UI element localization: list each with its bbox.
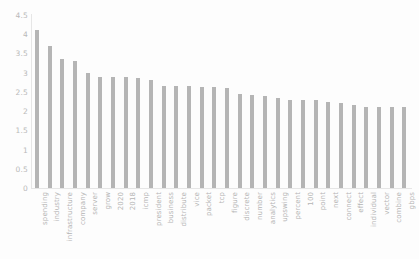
y-tick-label: 3 [23, 68, 28, 77]
bar-slot [311, 15, 324, 188]
bar-slot [298, 15, 311, 188]
y-tick-label: 1.5 [15, 126, 28, 135]
bar [250, 95, 254, 188]
bar [263, 96, 267, 188]
bar [136, 78, 140, 188]
bar [276, 98, 280, 188]
bar-slot [222, 15, 235, 188]
bar [174, 86, 178, 188]
bar-slot [209, 15, 222, 188]
bar [98, 77, 102, 188]
bar-slot [247, 15, 260, 188]
y-tick-label: 2.5 [15, 87, 28, 96]
bar-slot [399, 15, 412, 188]
bar-slot [197, 15, 210, 188]
bar-slot [57, 15, 70, 188]
y-tick-label: 4.5 [15, 11, 28, 20]
bar [124, 77, 128, 188]
bar-slot [108, 15, 121, 188]
bar-series [32, 15, 412, 188]
x-axis-tick-labels: spendingindustryinfrastructurecompanyser… [32, 191, 412, 257]
bar [48, 46, 52, 188]
y-tick-label: 0.5 [15, 164, 28, 173]
bar-slot [285, 15, 298, 188]
bar-slot [361, 15, 374, 188]
y-tick-label: 0 [23, 184, 28, 193]
bar [352, 105, 356, 188]
bar [339, 103, 343, 188]
bar-slot [349, 15, 362, 188]
y-tick-label: 1 [23, 145, 28, 154]
y-tick-label: 3.5 [15, 49, 28, 58]
bar-slot [260, 15, 273, 188]
bar-slot [121, 15, 134, 188]
bar-slot [83, 15, 96, 188]
y-tick-label: 4 [23, 30, 28, 39]
bar [73, 61, 77, 188]
bar [149, 80, 153, 188]
bar-slot [184, 15, 197, 188]
bar [35, 30, 39, 188]
bar [364, 107, 368, 189]
bar [238, 94, 242, 188]
bar [111, 77, 115, 188]
bar [162, 86, 166, 188]
bar-slot [45, 15, 58, 188]
bar-slot [374, 15, 387, 188]
bar [314, 100, 318, 188]
bar-slot [323, 15, 336, 188]
bar-slot [336, 15, 349, 188]
bar [187, 86, 191, 188]
bar [301, 100, 305, 188]
bar-slot [70, 15, 83, 188]
bar-slot [32, 15, 45, 188]
bar-slot [159, 15, 172, 188]
bar [200, 87, 204, 188]
bar-chart: 00.511.522.533.544.5 spendingindustryinf… [0, 0, 419, 259]
bar [326, 102, 330, 189]
bar [225, 88, 229, 188]
y-axis: 00.511.522.533.544.5 [0, 0, 32, 259]
bar-slot [146, 15, 159, 188]
bar-slot [95, 15, 108, 188]
bar-slot [387, 15, 400, 188]
bar-slot [171, 15, 184, 188]
bar [377, 107, 381, 188]
bar-slot [273, 15, 286, 188]
bar [402, 107, 406, 188]
bar-slot [133, 15, 146, 188]
bar [60, 59, 64, 188]
bar-slot [235, 15, 248, 188]
y-tick-label: 2 [23, 107, 28, 116]
bar [288, 100, 292, 188]
bar [86, 73, 90, 188]
x-axis-line [31, 188, 412, 189]
bar [212, 87, 216, 188]
bar [390, 107, 394, 188]
